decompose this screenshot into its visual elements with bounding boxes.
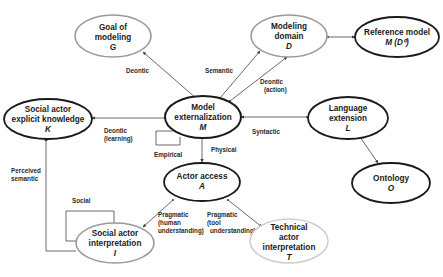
edge-language-ontology	[360, 137, 378, 163]
svg-text:Social actor: Social actor	[92, 229, 139, 238]
svg-text:Ontology: Ontology	[373, 174, 409, 183]
label-deontic-learning-1: Deontic	[104, 127, 128, 134]
label-pragmatic-human-2: (human	[158, 219, 181, 227]
svg-text:A: A	[198, 182, 205, 191]
node-reference-model: Reference model M (D⁰)	[355, 17, 439, 57]
svg-text:L: L	[345, 124, 350, 133]
label-perceived-1: Perceived	[11, 167, 41, 174]
node-social-actor-interpretation: Social actor interpretation I	[76, 223, 154, 263]
node-language-extension: Language extension L	[308, 97, 388, 139]
svg-text:modeling: modeling	[95, 33, 131, 42]
svg-text:O: O	[388, 184, 395, 193]
svg-text:Actor access: Actor access	[177, 172, 228, 181]
label-physical: Physical	[211, 146, 237, 154]
svg-text:interpretation: interpretation	[263, 243, 316, 252]
label-empirical: Empirical	[154, 151, 183, 159]
svg-text:actor: actor	[279, 233, 300, 242]
svg-text:Model: Model	[191, 103, 215, 112]
label-perceived-2: semantic	[11, 175, 39, 182]
label-deontic-learning-2: (learning)	[104, 135, 133, 143]
label-social: Social	[72, 197, 91, 204]
edge-perceived-semantic	[46, 138, 76, 251]
node-modeling-domain: Modeling domain D	[251, 15, 327, 57]
quality-framework-diagram: Deontic Semantic Deontic (action) Deonti…	[0, 0, 443, 277]
svg-text:Social actor: Social actor	[25, 105, 72, 114]
label-pragmatic-tool-2: (tool	[207, 219, 221, 227]
svg-text:domain: domain	[274, 32, 303, 41]
label-pragmatic-tool-3: understanding)	[210, 227, 256, 235]
svg-text:extension: extension	[329, 114, 367, 123]
label-deontic: Deontic	[126, 67, 150, 74]
label-semantic: Semantic	[205, 67, 233, 74]
node-technical-actor-interpretation: Technical actor interpretation T	[250, 219, 328, 263]
label-pragmatic-tool-1: Pragmatic	[207, 211, 238, 219]
svg-text:interpretation: interpretation	[89, 239, 142, 248]
node-goal-of-modeling: Goal of modeling G	[75, 15, 151, 57]
node-actor-access: Actor access A	[164, 163, 240, 201]
svg-text:externalization: externalization	[174, 113, 231, 122]
svg-text:explicit knowledge: explicit knowledge	[12, 115, 85, 124]
svg-text:M: M	[200, 123, 207, 132]
label-pragmatic-human-3: understanding)	[158, 227, 204, 235]
svg-text:D: D	[286, 42, 292, 51]
svg-text:Technical: Technical	[270, 223, 307, 232]
node-social-actor-explicit-knowledge: Social actor explicit knowledge K	[4, 99, 92, 139]
svg-text:Reference model: Reference model	[364, 28, 430, 37]
edge-goal-model	[143, 52, 197, 99]
label-pragmatic-human-1: Pragmatic	[158, 211, 189, 219]
label-syntactic: Syntactic	[252, 128, 280, 136]
label-deontic-action-2: (action)	[264, 86, 287, 94]
label-deontic-action-1: Deontic	[260, 78, 284, 85]
svg-text:Language: Language	[329, 104, 368, 113]
node-ontology: Ontology O	[352, 163, 430, 203]
svg-text:G: G	[110, 43, 117, 52]
edge-model-domain-semantic	[220, 51, 260, 98]
svg-text:M (D⁰): M (D⁰)	[385, 38, 409, 47]
svg-text:Modeling: Modeling	[271, 22, 307, 31]
node-model-externalization: Model externalization M	[165, 96, 241, 138]
svg-text:Goal of: Goal of	[99, 23, 127, 32]
